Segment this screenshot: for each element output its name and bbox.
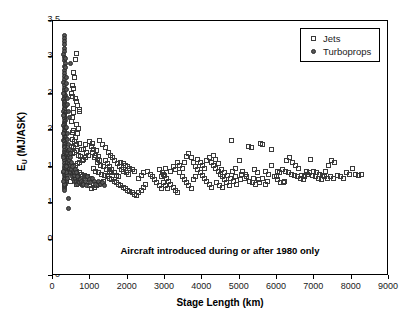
data-point-turboprop xyxy=(62,188,67,193)
data-point-jet xyxy=(227,183,232,188)
data-point-jet xyxy=(173,167,178,172)
x-tick-mark xyxy=(276,275,277,279)
data-point-jet xyxy=(244,174,249,179)
x-tick-label: 1000 xyxy=(69,281,109,291)
data-point-jet xyxy=(308,157,313,162)
data-point-jet xyxy=(126,172,131,177)
data-point-jet xyxy=(269,147,274,152)
x-tick-label: 6000 xyxy=(256,281,296,291)
data-point-turboprop xyxy=(64,125,69,130)
x-tick-mark xyxy=(313,275,314,279)
data-point-jet xyxy=(266,172,271,177)
x-tick-mark xyxy=(127,275,128,279)
data-point-jet xyxy=(209,185,214,190)
data-point-jet xyxy=(260,142,265,147)
x-axis-title: Stage Length (km) xyxy=(52,297,388,308)
x-tick-label: 3000 xyxy=(144,281,184,291)
data-point-jet xyxy=(347,172,352,177)
data-point-jet xyxy=(165,186,170,191)
data-point-jet xyxy=(71,86,76,91)
plot-annotation: Aircraft introduced during or after 1980… xyxy=(52,245,388,256)
data-point-turboprop xyxy=(61,179,66,184)
filled-circle-icon xyxy=(306,49,320,54)
x-tick-label: 5000 xyxy=(219,281,259,291)
data-point-turboprop xyxy=(68,61,73,66)
y-axis-title: EU (MJ/ASK) xyxy=(16,77,27,207)
data-point-jet xyxy=(77,109,82,114)
x-tick-label: 2000 xyxy=(107,281,147,291)
data-point-jet xyxy=(341,176,346,181)
data-point-turboprop xyxy=(67,115,72,120)
data-point-jet xyxy=(202,166,207,171)
data-point-jet xyxy=(182,160,187,165)
data-point-turboprop xyxy=(102,183,107,188)
data-point-turboprop xyxy=(64,81,69,86)
data-point-jet xyxy=(274,174,279,179)
data-point-jet xyxy=(71,70,76,75)
data-point-jet xyxy=(323,169,328,174)
data-point-jet xyxy=(74,51,79,56)
data-point-jet xyxy=(296,166,301,171)
x-tick-label: 9000 xyxy=(368,281,408,291)
data-point-jet xyxy=(143,182,148,187)
data-point-jet xyxy=(161,172,166,177)
x-tick-mark xyxy=(52,275,53,279)
data-point-jet xyxy=(118,160,123,165)
data-point-turboprop xyxy=(66,109,71,114)
data-point-jet xyxy=(216,161,221,166)
x-tick-label: 0 xyxy=(32,281,72,291)
data-point-jet xyxy=(282,179,287,184)
data-point-jet xyxy=(301,177,306,182)
x-tick-mark xyxy=(164,275,165,279)
data-point-jet xyxy=(332,160,337,165)
data-point-jet xyxy=(269,163,274,168)
x-tick-label: 7000 xyxy=(293,281,333,291)
x-tick-mark xyxy=(388,275,389,279)
data-point-jet xyxy=(163,166,168,171)
data-point-turboprop xyxy=(66,196,71,201)
data-point-jet xyxy=(193,174,198,179)
data-point-turboprop xyxy=(65,96,70,101)
data-point-turboprop xyxy=(64,75,69,80)
data-point-turboprop xyxy=(66,206,71,211)
data-point-jet xyxy=(189,186,194,191)
data-point-jet xyxy=(177,163,182,168)
data-point-jet xyxy=(97,158,102,163)
data-point-turboprop xyxy=(65,102,70,107)
data-point-jet xyxy=(326,163,331,168)
data-point-jet xyxy=(237,158,242,163)
x-tick-label: 4000 xyxy=(181,281,221,291)
legend-item-jets: Jets xyxy=(306,32,371,45)
data-point-jet xyxy=(350,166,355,171)
data-point-jet xyxy=(249,145,254,150)
data-point-jet xyxy=(234,182,239,187)
data-point-jet xyxy=(255,170,260,175)
legend-item-turboprops: Turboprops xyxy=(306,45,371,58)
data-point-jet xyxy=(220,185,225,190)
legend-label-jets: Jets xyxy=(320,33,340,44)
data-point-jet xyxy=(175,190,180,195)
data-point-jet xyxy=(73,57,78,62)
data-point-jet xyxy=(103,158,108,163)
data-point-jet xyxy=(359,172,364,177)
data-point-turboprop xyxy=(63,65,68,70)
data-point-jet xyxy=(229,138,234,143)
y-axis-title-base: E xyxy=(16,164,27,171)
legend-label-turboprops: Turboprops xyxy=(320,46,371,57)
x-tick-mark xyxy=(239,275,240,279)
x-tick-mark xyxy=(201,275,202,279)
open-square-icon xyxy=(306,36,320,41)
data-point-jet xyxy=(331,176,336,181)
data-point-jet xyxy=(94,148,99,153)
data-point-jet xyxy=(263,182,268,187)
figure-scatter-plot: EU (MJ/ASK) 00.51.01.52.02.53.03.5 01000… xyxy=(0,0,409,329)
y-axis-title-units: (MJ/ASK) xyxy=(16,112,27,159)
data-point-jet xyxy=(72,75,77,80)
x-tick-label: 8000 xyxy=(331,281,371,291)
x-tick-mark xyxy=(89,275,90,279)
y-axis-title-subscript: U xyxy=(21,159,28,164)
x-tick-mark xyxy=(351,275,352,279)
data-point-jet xyxy=(233,166,238,171)
data-point-jet xyxy=(90,141,95,146)
legend: Jets Turboprops xyxy=(300,28,380,62)
